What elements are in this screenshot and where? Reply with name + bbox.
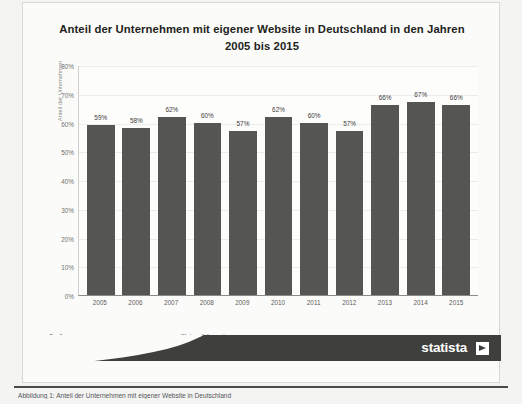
bar: 57% [229,131,257,295]
bar-value-label: 60% [300,112,328,119]
x-axis-ticks: 2005200620072008200920102011201220132014… [78,299,478,306]
chart-title: Anteil der Unternehmen mit eigener Websi… [53,21,471,55]
bar-value-label: 62% [265,106,293,113]
x-axis-tick-label: 2014 [403,299,439,306]
bar: 66% [371,105,399,295]
bar-column: 62% [154,66,190,295]
bar: 60% [194,123,222,296]
bar-value-label: 58% [122,117,150,124]
x-axis-tick-label: 2009 [225,299,261,306]
x-axis-tick-label: 2013 [367,299,403,306]
x-axis-tick-label: 2007 [153,299,189,306]
bar-column: 62% [261,66,297,295]
y-axis-tick-label: 20% [34,236,74,243]
bar: 58% [122,128,150,295]
x-axis-tick-label: 2015 [438,299,474,306]
bar-column: 66% [367,66,403,295]
y-axis-tick-label: 70% [34,92,74,99]
x-axis-tick-label: 2011 [296,299,332,306]
bar-value-label: 59% [87,114,115,121]
bar-column: 59% [83,66,119,295]
bar-column: 60% [190,66,226,295]
bar-series: 59%58%62%60%57%62%60%57%66%67%66% [79,66,478,295]
figure-footer: Quelle: Statistisches Bundesamt © Statis… [23,325,501,361]
bar: 62% [265,117,293,295]
bar-value-label: 57% [229,120,257,127]
bar-column: 60% [296,66,332,295]
y-axis-tick-label: 40% [34,178,74,185]
bar: 60% [300,123,328,296]
bar: 57% [336,131,364,295]
x-axis-tick-label: 2005 [82,299,118,306]
bar-column: 57% [225,66,261,295]
bar-value-label: 66% [442,94,470,101]
bar: 62% [158,117,186,295]
statista-arrow-icon [476,342,489,355]
bar-column: 66% [438,66,474,295]
figure-caption: Abbildung 1: Anteil der Unternehmen mit … [18,392,498,399]
bar-column: 57% [332,66,368,295]
y-axis-title: Anteil der Unternehmen [57,1,63,121]
y-axis-tick-label: 50% [34,149,74,156]
bar-value-label: 66% [371,94,399,101]
y-axis-tick-label: 60% [34,121,74,128]
x-axis-tick-label: 2008 [189,299,225,306]
bar-column: 58% [119,66,155,295]
y-axis-tick-label: 10% [34,264,74,271]
statista-brand-bar: statista [23,335,501,361]
bar: 67% [407,102,435,295]
y-axis-tick-label: 0% [34,293,74,300]
bar-value-label: 60% [194,112,222,119]
plot-area: 0%10%20%30%40%50%60%70%80% 59%58%62%60%5… [78,66,478,296]
page-divider-rule [14,386,508,388]
x-axis-tick-label: 2012 [331,299,367,306]
chart-figure: Anteil der Unternehmen mit eigener Websi… [22,2,500,383]
bar: 66% [442,105,470,295]
brand-swoosh-decoration [23,335,215,361]
bar-value-label: 57% [336,120,364,127]
scanned-page: Anteil der Unternehmen mit eigener Websi… [0,0,522,404]
bar-column: 67% [403,66,439,295]
y-axis-tick-label: 80% [34,63,74,70]
bar: 59% [87,125,115,295]
bar-value-label: 67% [407,91,435,98]
y-axis-tick-label: 30% [34,207,74,214]
bar-value-label: 62% [158,106,186,113]
statista-wordmark: statista [421,340,467,355]
x-axis-tick-label: 2006 [118,299,154,306]
x-axis-tick-label: 2010 [260,299,296,306]
